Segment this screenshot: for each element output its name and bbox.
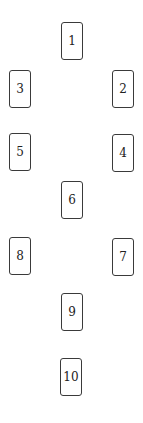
card-number: 10 <box>63 371 78 383</box>
card-number: 9 <box>68 306 76 318</box>
card-number: 5 <box>16 146 24 158</box>
card-position-8: 8 <box>9 237 31 275</box>
card-position-9: 9 <box>61 293 83 331</box>
card-position-7: 7 <box>112 238 134 276</box>
card-number: 3 <box>16 83 24 95</box>
card-number: 2 <box>119 83 127 95</box>
card-number: 1 <box>68 35 76 47</box>
card-position-4: 4 <box>112 134 134 172</box>
card-position-2: 2 <box>112 70 134 108</box>
card-position-10: 10 <box>60 358 82 396</box>
card-number: 7 <box>119 251 127 263</box>
card-number: 4 <box>119 147 127 159</box>
card-position-3: 3 <box>9 70 31 108</box>
card-number: 8 <box>16 250 24 262</box>
card-position-6: 6 <box>61 181 83 219</box>
card-position-1: 1 <box>61 22 83 60</box>
card-number: 6 <box>68 194 76 206</box>
card-spread-diagram: 1 2 3 4 5 6 7 8 9 10 <box>0 0 143 423</box>
card-position-5: 5 <box>9 133 31 171</box>
